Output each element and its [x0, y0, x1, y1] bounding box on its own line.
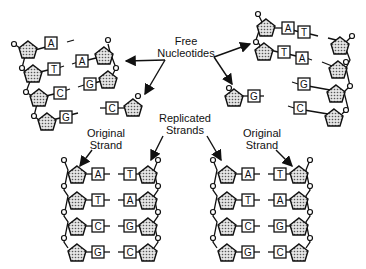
original-strand-label-right: Original Strand [243, 127, 281, 151]
svg-text:T: T [245, 195, 251, 206]
svg-text:A: A [48, 38, 55, 49]
svg-text:T: T [127, 169, 133, 180]
svg-text:G: G [86, 79, 94, 90]
dna-replication-diagram: A T C G A G C [0, 0, 366, 269]
svg-text:A: A [285, 23, 292, 34]
svg-text:T: T [95, 195, 101, 206]
svg-text:G: G [62, 112, 70, 123]
svg-text:T: T [281, 47, 287, 58]
svg-text:Strands: Strands [166, 124, 204, 136]
svg-text:Strand: Strand [90, 139, 122, 151]
svg-text:A: A [277, 195, 284, 206]
svg-text:A: A [127, 195, 134, 206]
svg-text:T: T [51, 64, 57, 75]
free-nucleotides-label: Free Nucleotides [157, 35, 215, 59]
svg-text:T: T [301, 27, 307, 38]
svg-text:C: C [276, 247, 283, 258]
svg-text:A: A [79, 56, 86, 67]
svg-text:G: G [94, 247, 102, 258]
bottom-left-helix: A T T A C G G C [62, 158, 161, 262]
svg-text:G: G [126, 221, 134, 232]
svg-text:C: C [94, 221, 101, 232]
bottom-right-helix: A T T A C G G C [211, 158, 313, 262]
original-strand-label-left: Original Strand [87, 127, 125, 151]
svg-text:G: G [244, 247, 252, 258]
svg-text:C: C [296, 103, 303, 114]
svg-text:G: G [250, 91, 258, 102]
svg-text:Original: Original [243, 127, 281, 139]
svg-text:Strand: Strand [246, 139, 278, 151]
svg-text:A: A [95, 169, 102, 180]
svg-text:Replicated: Replicated [159, 112, 211, 124]
svg-text:C: C [126, 247, 133, 258]
svg-text:C: C [244, 221, 251, 232]
svg-text:C: C [56, 88, 63, 99]
replicated-strands-label: Replicated Strands [159, 112, 211, 136]
svg-text:G: G [300, 79, 308, 90]
svg-text:Free: Free [175, 35, 198, 47]
svg-text:T: T [277, 169, 283, 180]
svg-text:A: A [245, 169, 252, 180]
svg-text:Original: Original [87, 127, 125, 139]
svg-text:A: A [299, 53, 306, 64]
svg-text:G: G [276, 221, 284, 232]
svg-text:C: C [108, 103, 115, 114]
svg-text:Nucleotides: Nucleotides [157, 47, 215, 59]
